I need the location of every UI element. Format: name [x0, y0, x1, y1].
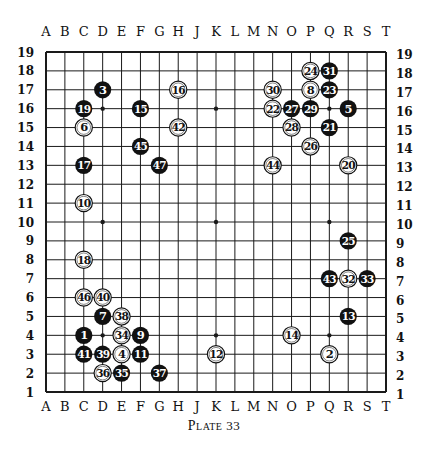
move-number: 20	[342, 159, 356, 171]
black-stone: 31	[321, 62, 338, 79]
move-number: 17	[77, 159, 91, 171]
column-label: C	[79, 399, 89, 414]
column-label: R	[343, 399, 354, 414]
white-stone: 46	[75, 289, 92, 306]
caption-number: 33	[226, 418, 240, 433]
white-stone: 14	[283, 327, 300, 344]
column-label: Q	[324, 399, 335, 414]
row-label: 9	[396, 237, 404, 251]
move-number: 32	[342, 273, 356, 285]
move-number: 29	[304, 103, 318, 115]
row-label: 3	[396, 350, 404, 364]
row-labels-right: 19181716151413121110987654321	[396, 48, 413, 402]
black-stone: 1	[75, 327, 92, 344]
black-stone: 7	[94, 308, 111, 325]
white-stone: 44	[264, 157, 281, 174]
move-number: 13	[342, 310, 356, 322]
row-label: 15	[17, 121, 34, 135]
black-stone: 19	[75, 100, 92, 117]
white-stone: 6	[75, 119, 92, 136]
row-label: 2	[26, 367, 34, 381]
row-label: 12	[17, 178, 34, 192]
black-stone: 11	[132, 346, 149, 363]
move-number: 28	[285, 121, 299, 133]
black-stone: 45	[132, 138, 149, 155]
white-stone: 34	[113, 327, 130, 344]
row-label: 1	[396, 388, 404, 402]
row-label: 7	[396, 275, 404, 289]
row-label: 18	[17, 64, 34, 78]
move-number: 42	[172, 121, 186, 133]
row-label: 17	[396, 86, 413, 100]
black-stone: 9	[132, 327, 149, 344]
column-label: H	[173, 24, 184, 39]
row-label: 3	[26, 348, 34, 362]
row-label: 18	[396, 67, 413, 81]
column-label: T	[382, 399, 391, 414]
move-number: 21	[323, 121, 337, 133]
move-number: 35	[115, 367, 129, 379]
move-number: 36	[96, 367, 110, 379]
column-label: Q	[324, 24, 335, 39]
star-point	[214, 333, 218, 337]
column-labels-top: ABCDEFGHJKLMNOPQRST	[40, 24, 390, 39]
star-point	[327, 106, 331, 110]
move-number: 40	[96, 291, 110, 303]
column-label: E	[117, 24, 127, 39]
move-number: 16	[172, 84, 186, 96]
black-stone: 15	[132, 100, 149, 117]
row-label: 15	[396, 124, 413, 138]
black-stone: 3	[94, 81, 111, 98]
move-number: 34	[115, 329, 129, 341]
black-stone: 21	[321, 119, 338, 136]
white-stone: 24	[302, 62, 319, 79]
move-number: 46	[77, 291, 91, 303]
column-label: G	[154, 399, 164, 414]
move-number: 6	[80, 120, 88, 134]
row-label: 19	[17, 46, 34, 60]
row-label: 16	[17, 102, 34, 116]
go-board-diagram: ABCDEFGHJKLMNOPQRST ABCDEFGHJKLMNOPQRST …	[0, 0, 428, 457]
move-number: 41	[77, 348, 91, 360]
move-number: 37	[153, 367, 167, 379]
black-stone: 35	[113, 365, 130, 382]
column-label: O	[286, 399, 297, 414]
move-number: 1	[80, 328, 87, 342]
star-point	[100, 220, 104, 224]
row-label: 13	[396, 161, 413, 175]
column-label: C	[79, 24, 89, 39]
row-label: 11	[396, 199, 413, 213]
row-label: 6	[396, 294, 404, 308]
column-label: N	[267, 24, 278, 39]
white-stone: 32	[340, 270, 357, 287]
row-label: 13	[17, 159, 34, 173]
move-number: 8	[307, 83, 315, 97]
move-number: 19	[77, 103, 91, 115]
star-point	[100, 333, 104, 337]
row-label: 5	[26, 310, 34, 324]
column-label: L	[231, 24, 240, 39]
column-label: B	[60, 399, 70, 414]
row-label: 5	[396, 312, 404, 326]
move-number: 44	[266, 159, 280, 171]
column-label: D	[97, 24, 107, 39]
star-point	[327, 333, 331, 337]
column-label: D	[97, 399, 107, 414]
white-stone: 22	[264, 100, 281, 117]
column-label: J	[193, 399, 200, 414]
white-stone: 26	[302, 138, 319, 155]
column-labels-bottom: ABCDEFGHJKLMNOPQRST	[40, 399, 390, 414]
white-stone: 16	[170, 81, 187, 98]
row-label: 14	[17, 140, 34, 154]
column-label: B	[60, 24, 70, 39]
white-stone: 30	[264, 81, 281, 98]
row-label: 1	[26, 386, 34, 400]
column-label: F	[136, 24, 145, 39]
white-stone: 8	[302, 81, 319, 98]
row-label: 8	[26, 253, 34, 267]
move-number: 22	[266, 103, 280, 115]
move-number: 38	[115, 310, 129, 322]
black-stone: 37	[151, 365, 168, 382]
white-stone: 42	[170, 119, 187, 136]
move-number: 12	[209, 348, 223, 360]
